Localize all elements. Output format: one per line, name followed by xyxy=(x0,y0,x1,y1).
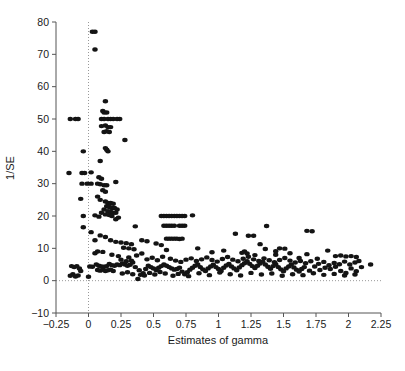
data-point xyxy=(157,270,162,274)
data-point xyxy=(209,258,214,262)
data-point xyxy=(215,259,220,263)
data-point xyxy=(342,273,347,277)
scatter-plot-canvas: −0.2500.250.50.7511.251.51.7522.25−10010… xyxy=(0,0,405,371)
data-point xyxy=(135,277,140,281)
data-point xyxy=(317,268,322,272)
y-tick-label: 10 xyxy=(37,242,49,254)
data-point xyxy=(246,255,251,259)
data-point xyxy=(343,254,348,258)
data-point xyxy=(109,253,114,257)
data-point xyxy=(194,259,199,263)
data-point xyxy=(118,257,123,261)
data-point xyxy=(108,238,113,242)
data-point xyxy=(302,265,307,269)
data-point xyxy=(82,171,87,175)
data-point xyxy=(105,149,110,153)
data-point xyxy=(130,272,135,276)
data-point xyxy=(179,236,184,240)
data-point xyxy=(113,240,118,244)
data-point xyxy=(79,181,84,185)
data-point xyxy=(189,256,194,260)
data-point xyxy=(81,214,86,218)
data-point xyxy=(121,245,126,249)
data-point xyxy=(186,274,191,278)
data-point xyxy=(103,99,108,103)
data-point xyxy=(109,214,114,218)
data-point xyxy=(150,256,155,260)
data-point xyxy=(304,229,309,233)
data-point xyxy=(267,258,272,262)
data-point xyxy=(348,266,353,270)
data-point xyxy=(99,177,104,181)
data-point xyxy=(183,257,188,261)
data-point xyxy=(261,256,266,260)
data-point xyxy=(104,183,109,187)
data-point xyxy=(199,257,204,261)
data-point xyxy=(182,214,187,218)
y-tick-label: 60 xyxy=(37,80,49,92)
data-point xyxy=(338,253,343,257)
data-point xyxy=(92,251,97,255)
data-point xyxy=(195,246,200,250)
data-point xyxy=(293,260,298,264)
data-point xyxy=(163,271,168,275)
data-point xyxy=(311,271,316,275)
y-tick-label: 30 xyxy=(37,177,49,189)
data-point xyxy=(88,170,93,174)
data-point xyxy=(280,274,285,278)
data-point xyxy=(131,247,136,251)
y-tick-label: 20 xyxy=(37,210,49,222)
data-point xyxy=(325,248,330,252)
data-point xyxy=(264,224,269,228)
data-point xyxy=(332,272,337,276)
data-point xyxy=(282,246,287,250)
data-point xyxy=(108,125,113,129)
data-point xyxy=(333,254,338,258)
data-point xyxy=(235,259,240,263)
data-point xyxy=(309,229,314,233)
data-point xyxy=(68,274,73,278)
data-point xyxy=(144,257,149,261)
data-point xyxy=(230,257,235,261)
data-point xyxy=(111,202,116,206)
data-point xyxy=(207,273,212,277)
data-point xyxy=(133,224,138,228)
data-point xyxy=(124,259,129,263)
x-tick-label: −0.25 xyxy=(43,318,70,330)
data-point xyxy=(103,190,108,194)
data-points-layer xyxy=(66,30,373,282)
data-point xyxy=(75,273,80,277)
data-point xyxy=(321,273,326,277)
data-point xyxy=(282,256,287,260)
data-point xyxy=(359,265,364,269)
x-tick-label: 2 xyxy=(346,318,352,330)
data-point xyxy=(190,213,195,217)
funnel-plot-figure: −0.2500.250.50.7511.251.51.7522.25−10010… xyxy=(0,0,405,371)
data-point xyxy=(303,261,308,265)
data-point xyxy=(86,275,91,279)
data-point xyxy=(315,256,320,260)
x-tick-label: 0 xyxy=(86,318,92,330)
data-point xyxy=(173,258,178,262)
x-axis-title: Estimates of gamma xyxy=(168,334,269,346)
data-point xyxy=(88,230,93,234)
data-point xyxy=(164,248,169,252)
data-point xyxy=(273,249,278,253)
data-point xyxy=(78,269,83,273)
data-point xyxy=(246,234,251,238)
x-tick-label: 1.5 xyxy=(276,318,291,330)
data-point xyxy=(242,249,247,253)
data-point xyxy=(308,259,313,263)
data-point xyxy=(100,250,105,254)
data-point xyxy=(126,246,131,250)
data-point xyxy=(233,232,238,236)
data-point xyxy=(92,47,97,51)
data-point xyxy=(178,260,183,264)
data-point xyxy=(129,258,134,262)
data-point xyxy=(152,272,157,276)
data-point xyxy=(104,110,109,114)
data-point xyxy=(66,171,71,175)
data-point xyxy=(113,180,118,184)
data-point xyxy=(298,259,303,263)
data-point xyxy=(251,234,256,238)
